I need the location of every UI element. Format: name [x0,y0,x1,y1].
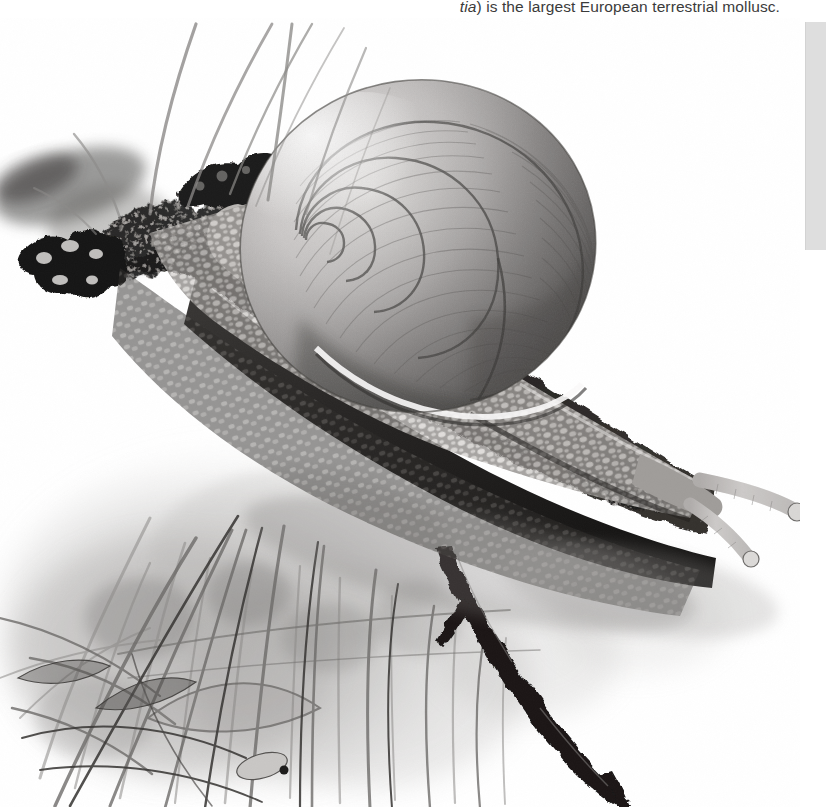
figure-caption: tia) is the largest European terrestrial… [0,0,780,17]
snail-illustration [0,18,800,807]
caption-text: ) is the largest European terrestrial mo… [476,0,780,15]
scanned-page: tia) is the largest European terrestrial… [0,0,826,807]
page-side-marker [805,22,826,250]
caption-italic-fragment: tia [460,0,477,15]
